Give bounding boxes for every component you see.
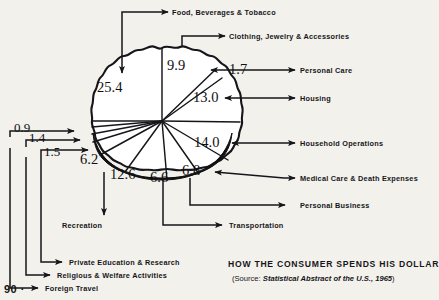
source-citation: Statistical Abstract of the U.S., 1965 <box>263 274 392 283</box>
source-prefix: (Source: <box>232 274 263 283</box>
value-personal-care: 1.7 <box>229 62 247 77</box>
leader-transportation <box>163 180 222 225</box>
value-transportation: 12.6 <box>110 167 135 182</box>
leader-medical <box>215 172 284 178</box>
value-housing: 13.0 <box>193 90 218 105</box>
value-medical: 6.8 <box>182 163 200 178</box>
value-recreation: 6.2 <box>80 152 98 167</box>
label-medical: Medical Care & Death Expenses <box>300 175 418 182</box>
value-food: 25.4 <box>97 80 122 95</box>
leader-foreign-travel <box>10 148 38 288</box>
label-household-ops: Household Operations <box>300 140 383 147</box>
label-foreign-travel: Foreign Travel <box>45 285 98 292</box>
value-foreign-travel: 0.9 <box>14 121 30 134</box>
label-recreation: Recreation <box>62 222 102 229</box>
label-personal-business: Personal Business <box>300 202 370 209</box>
label-personal-care: Personal Care <box>300 67 352 74</box>
label-education: Private Education & Research <box>69 259 180 266</box>
divider-housing-householdops <box>162 121 240 122</box>
source-suffix: ) <box>392 274 395 283</box>
label-religious: Religious & Welfare Activities <box>57 272 167 279</box>
value-education: 1.5 <box>44 145 60 158</box>
value-household-ops: 14.0 <box>194 135 219 150</box>
label-food: Food, Beverages & Tobacco <box>172 9 276 16</box>
label-transportation: Transportation <box>229 222 284 229</box>
page-number: 90 · <box>4 283 25 295</box>
value-clothing: 9.9 <box>167 58 185 73</box>
label-clothing: Clothing, Jewelry & Accessories <box>229 33 349 40</box>
leader-education <box>41 157 62 262</box>
value-personal-business: 6.6 <box>150 170 168 185</box>
leader-religious <box>26 157 50 275</box>
figure-title: HOW THE CONSUMER SPENDS HIS DOLLAR <box>228 259 439 269</box>
leader-clothing <box>182 36 216 47</box>
value-religious: 1.4 <box>29 131 45 144</box>
figure-source: (Source: Statistical Abstract of the U.S… <box>232 274 395 283</box>
leader-personal-business <box>190 178 285 205</box>
label-housing: Housing <box>300 95 331 102</box>
